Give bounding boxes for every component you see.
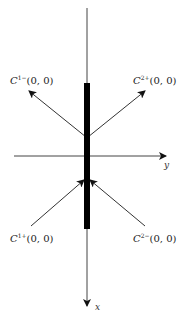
arrow-top-right [88,91,145,137]
y-axis-label: y [164,160,169,170]
label-symbol: C [10,233,18,244]
label-symbol: C [133,233,141,244]
label-args: (0, 0) [150,75,177,86]
x-axis-label: x [95,302,100,312]
label-superscript: 1− [18,74,27,81]
label-bottom-left: C1+(0, 0) [10,230,53,245]
diagram-canvas [0,0,184,327]
label-bottom-right: C2−(0, 0) [133,230,176,245]
label-superscript: 2+ [141,74,150,81]
arrow-bottom-left [31,180,84,226]
label-args: (0, 0) [150,233,177,244]
label-superscript: 2− [141,232,150,239]
arrow-top-left [29,91,86,137]
label-args: (0, 0) [27,233,54,244]
label-symbol: C [133,75,141,86]
label-top-right: C2+(0, 0) [133,72,176,87]
label-symbol: C [10,75,18,86]
arrow-bottom-right [90,180,145,226]
label-args: (0, 0) [27,75,54,86]
thick-bar [84,83,90,229]
label-superscript: 1+ [18,232,27,239]
label-top-left: C1−(0, 0) [10,72,53,87]
